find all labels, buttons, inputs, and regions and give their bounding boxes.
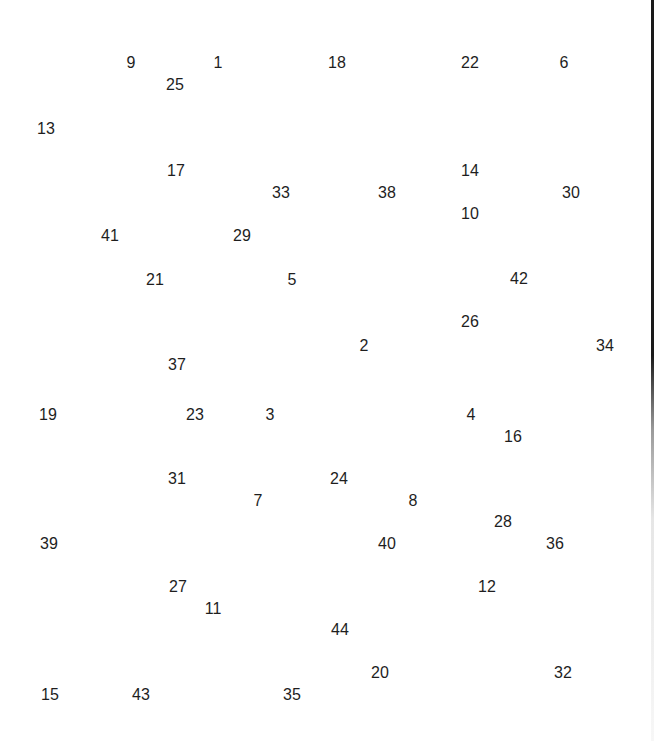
dot-number-label: 38 <box>378 185 396 201</box>
dot-number-label: 14 <box>461 163 479 179</box>
dot-number-label: 33 <box>272 185 290 201</box>
dot-number-label: 27 <box>169 579 187 595</box>
dot-number-label: 17 <box>167 163 185 179</box>
dot-number-label: 1 <box>214 55 223 71</box>
dot-number-label: 12 <box>478 579 496 595</box>
dot-number-label: 6 <box>560 55 569 71</box>
dot-number-label: 37 <box>168 357 186 373</box>
dot-number-label: 41 <box>101 228 119 244</box>
dot-number-label: 16 <box>504 429 522 445</box>
dot-number-label: 5 <box>288 272 297 288</box>
dot-number-label: 40 <box>378 536 396 552</box>
dot-number-label: 42 <box>510 271 528 287</box>
dot-number-label: 23 <box>186 407 204 423</box>
dot-number-label: 18 <box>328 55 346 71</box>
dot-number-label: 22 <box>461 55 479 71</box>
dot-number-label: 10 <box>461 206 479 222</box>
dot-puzzle-sheet: 1234567891011121314151617181920212223242… <box>0 0 655 741</box>
dot-number-label: 39 <box>40 536 58 552</box>
dot-number-label: 24 <box>330 471 348 487</box>
dot-number-label: 36 <box>546 536 564 552</box>
dot-number-label: 20 <box>371 665 389 681</box>
dot-number-label: 32 <box>554 665 572 681</box>
dot-number-label: 11 <box>205 601 222 617</box>
dot-number-label: 19 <box>39 407 57 423</box>
dot-number-label: 43 <box>132 687 150 703</box>
dot-number-label: 35 <box>283 687 301 703</box>
dot-number-label: 26 <box>461 314 479 330</box>
dot-number-label: 28 <box>494 514 512 530</box>
dot-number-label: 4 <box>467 407 476 423</box>
dot-number-label: 9 <box>127 55 136 71</box>
dot-number-label: 13 <box>37 121 55 137</box>
dot-number-label: 44 <box>331 622 349 638</box>
dot-number-label: 31 <box>168 471 186 487</box>
dot-number-label: 34 <box>596 338 614 354</box>
dot-number-label: 8 <box>409 493 418 509</box>
dot-number-label: 29 <box>233 228 251 244</box>
dot-number-label: 25 <box>166 77 184 93</box>
dot-number-label: 2 <box>360 338 369 354</box>
dot-number-label: 7 <box>254 493 263 509</box>
page-edge-border <box>651 0 654 741</box>
dot-number-label: 15 <box>41 687 59 703</box>
dot-number-label: 21 <box>146 272 164 288</box>
dot-number-label: 3 <box>266 407 275 423</box>
dot-number-label: 30 <box>562 185 580 201</box>
